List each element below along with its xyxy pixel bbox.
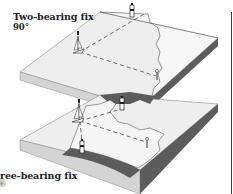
page-divider-line bbox=[231, 12, 232, 194]
three-bearing-fix-title: ree-bearing fix bbox=[0, 171, 77, 181]
two-bearing-fix-angle: 90° bbox=[13, 22, 29, 32]
three-bearing-fix-angle: ° bbox=[0, 180, 3, 190]
two-bearing-fix-title: Two-bearing fix bbox=[13, 12, 94, 22]
navigation-fix-illustration: Two-bearing fix 90° ree-bearing fix ° bbox=[0, 0, 233, 194]
lighthouse-icon bbox=[80, 139, 84, 153]
lighthouse-icon bbox=[120, 96, 124, 110]
lighthouse-icon bbox=[130, 3, 134, 17]
